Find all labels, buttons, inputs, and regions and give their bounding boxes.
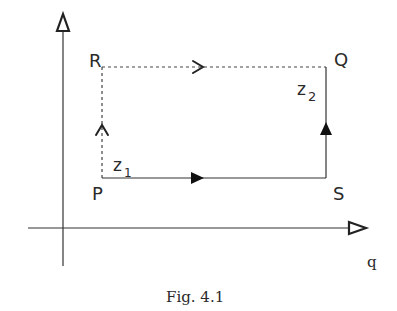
filled-triangle-up-icon: [320, 122, 332, 135]
path-p-to-s: [102, 172, 326, 184]
cycle-diagram: R Q P S z 1 z 2 q Fig. 4.1: [0, 0, 397, 311]
figure-caption: Fig. 4.1: [166, 288, 224, 306]
path-p-to-r: [96, 67, 108, 178]
filled-triangle-right-icon: [191, 172, 204, 184]
point-label-q: Q: [334, 49, 348, 70]
hollow-triangle-icon: [349, 222, 366, 234]
point-label-s: S: [333, 183, 344, 204]
horizontal-axis: [28, 222, 366, 234]
z2-base: z: [297, 79, 306, 99]
point-label-r: R: [89, 50, 102, 71]
path-s-to-q: [320, 67, 332, 178]
label-z2: z 2: [297, 79, 316, 104]
point-label-p: P: [92, 183, 103, 204]
label-z1: z 1: [113, 155, 132, 180]
z1-subscript: 1: [124, 166, 132, 180]
axis-label-q: q: [367, 253, 377, 271]
z1-base: z: [113, 155, 122, 175]
hollow-triangle-icon: [57, 14, 69, 31]
z2-subscript: 2: [308, 89, 316, 104]
path-r-to-q: [102, 61, 326, 73]
